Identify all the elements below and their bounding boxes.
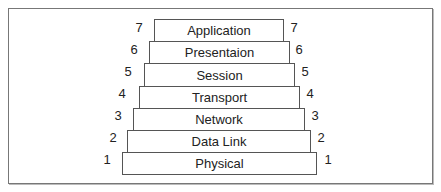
- layer-session-label: Session: [196, 68, 242, 83]
- layer-presentation-label: Presentaion: [185, 45, 254, 60]
- layer-network: Network: [133, 108, 305, 131]
- layer-physical: Physical: [122, 152, 317, 175]
- layer-network-label: Network: [195, 112, 243, 127]
- layer-physical-label: Physical: [195, 156, 243, 171]
- layer-data-link-label: Data Link: [192, 134, 247, 149]
- layer-5-number-right: 5: [299, 64, 311, 79]
- layer-2-number-right: 2: [315, 130, 327, 145]
- layer-1-number-left: 1: [101, 152, 113, 167]
- layer-application: Application: [154, 19, 284, 42]
- layer-3-number-right: 3: [309, 108, 321, 123]
- layer-7-number-left: 7: [133, 20, 145, 35]
- layer-presentation: Presentaion: [149, 41, 290, 64]
- layer-4-number-right: 4: [304, 86, 316, 101]
- layer-6-number-left: 6: [128, 42, 140, 57]
- layer-1-number-right: 1: [322, 152, 334, 167]
- layer-2-number-left: 2: [107, 130, 119, 145]
- layer-6-number-right: 6: [293, 42, 305, 57]
- layer-session: Session: [144, 63, 295, 87]
- layer-transport: Transport: [139, 86, 300, 109]
- layer-7-number-right: 7: [288, 20, 300, 35]
- layer-transport-label: Transport: [192, 90, 247, 105]
- layer-3-number-left: 3: [112, 108, 124, 123]
- layer-application-label: Application: [187, 23, 251, 38]
- layer-data-link: Data Link: [127, 130, 311, 153]
- layer-4-number-left: 4: [116, 86, 128, 101]
- layer-5-number-left: 5: [122, 64, 134, 79]
